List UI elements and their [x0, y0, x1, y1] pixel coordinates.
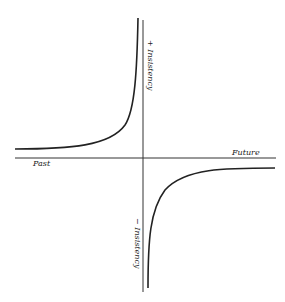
insistency-diagram: Past Future + Insistency − Insistency [0, 0, 285, 302]
positive-insistency-curve [15, 18, 138, 149]
negative-insistency-label: − Insistency [133, 218, 142, 269]
past-label: Past [32, 159, 51, 168]
negative-insistency-curve [148, 168, 275, 288]
positive-insistency-label: + Insistency [146, 40, 155, 91]
future-label: Future [231, 148, 260, 157]
